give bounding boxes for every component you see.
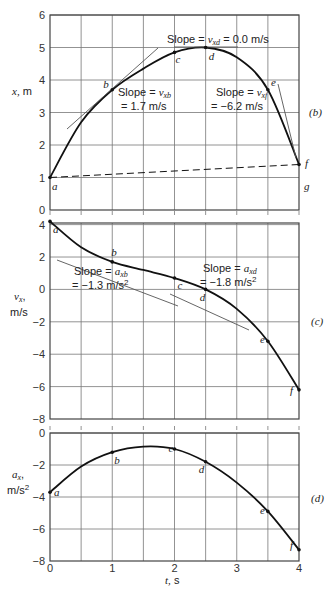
- y-tick-label: −4: [32, 348, 45, 360]
- point-label-a: a: [53, 223, 59, 235]
- data-point-e: [266, 510, 270, 514]
- y-tick-label: −2: [32, 459, 45, 471]
- annotation-slope-axd: Slope = axd: [203, 262, 258, 276]
- y-tick-label: −2: [32, 316, 45, 328]
- data-point-d: [204, 46, 208, 50]
- point-label-b: b: [103, 78, 109, 90]
- panel-label-b: (b): [309, 106, 322, 119]
- annotation-slope-vxf-value: = −6.2 m/s: [211, 100, 263, 112]
- svg-text:t, s: t, s: [165, 574, 180, 586]
- point-label-d: d: [209, 50, 215, 62]
- data-point-f: [297, 163, 301, 167]
- x-tick-label: 0: [47, 562, 53, 574]
- point-label-d: d: [200, 291, 206, 303]
- y-tick-label: 6: [39, 9, 45, 21]
- annotation-slope-vxb: Slope = vxb: [118, 86, 171, 100]
- data-point-a: [48, 490, 52, 494]
- point-label-b: b: [114, 454, 120, 466]
- y-tick-label: 1: [39, 172, 45, 184]
- point-label-b: b: [111, 246, 117, 258]
- y-tick-label: 5: [39, 42, 45, 54]
- point-label-a: a: [52, 180, 58, 192]
- annotation-slope-axb: Slope = axb: [74, 265, 128, 279]
- svg-text:x, m: x, m: [11, 85, 32, 97]
- data-point-c: [173, 276, 177, 280]
- panel-label-c: (c): [311, 315, 324, 328]
- x-axis-label: t, s: [165, 574, 180, 586]
- y-tick-label: 4: [39, 219, 45, 231]
- data-point-f: [297, 388, 301, 392]
- y-tick-label: −8: [32, 555, 45, 567]
- y-tick-label: 0: [39, 204, 45, 216]
- point-label-c: c: [169, 442, 174, 454]
- y-axis-label-c: vx, m/s: [10, 290, 28, 318]
- tangent-line: [278, 84, 296, 158]
- y-axis-label-b: x, m: [11, 85, 32, 97]
- point-label-e: e: [271, 76, 276, 88]
- chart-panel-d-acceleration: 0−2−4−6−801234abcdef: [32, 427, 302, 574]
- point-label-c: c: [176, 53, 181, 65]
- point-label-e: e: [260, 504, 265, 516]
- point-label-c: c: [178, 279, 183, 291]
- x-tick-label: 3: [234, 562, 240, 574]
- annotation-slope-vxf: Slope = vxf: [216, 86, 269, 100]
- annotation-slope-vxd: Slope = vxd = 0.0 m/s: [167, 33, 269, 47]
- data-point-f: [297, 548, 301, 552]
- data-point-d: [204, 460, 208, 464]
- chart-panel-c-velocity: 420−2−4−6−8abcdef: [32, 219, 300, 430]
- svg-text:ax,: ax,: [12, 468, 24, 482]
- annotation-slope-vxb-value: = 1.7 m/s: [121, 100, 167, 112]
- point-label-a: a: [54, 486, 60, 498]
- point-label-f: f: [290, 384, 295, 396]
- x-tick-label: 2: [171, 562, 177, 574]
- panel-label-d: (d): [311, 492, 324, 505]
- y-tick-label: 2: [39, 251, 45, 263]
- point-label-f: f: [305, 157, 310, 169]
- y-tick-label: −4: [32, 491, 45, 503]
- annotation-slope-axb-value: = −1.3 m/s2: [72, 278, 129, 291]
- y-tick-label: 2: [39, 139, 45, 151]
- svg-text:vx,: vx,: [14, 290, 26, 304]
- y-tick-label: −8: [32, 413, 45, 425]
- data-point-b: [110, 88, 114, 92]
- x-tick-label: 4: [296, 562, 302, 574]
- data-point-a: [48, 220, 52, 224]
- y-tick-label: 0: [39, 427, 45, 439]
- point-label-g: g: [304, 180, 310, 192]
- data-point-b: [110, 260, 114, 264]
- y-tick-label: 4: [39, 74, 45, 86]
- motion-graphs-figure: 0123456abcdefg 420−2−4−6−8abcdef 0−2−4−6…: [0, 0, 333, 589]
- data-point-e: [266, 339, 270, 343]
- y-tick-label: 0: [39, 283, 45, 295]
- x-tick-label: 1: [109, 562, 115, 574]
- y-tick-label: −6: [32, 381, 45, 393]
- y-axis-label-d: ax, m/s2: [7, 468, 30, 496]
- y-tick-label: −6: [32, 523, 45, 535]
- y-tick-label: 3: [39, 107, 45, 119]
- svg-text:m/s: m/s: [10, 306, 28, 318]
- svg-text:m/s2: m/s2: [7, 483, 30, 496]
- point-label-e: e: [260, 333, 265, 345]
- point-label-d: d: [199, 463, 205, 475]
- annotation-slope-axd-value: = −1.8 m/s2: [200, 275, 257, 288]
